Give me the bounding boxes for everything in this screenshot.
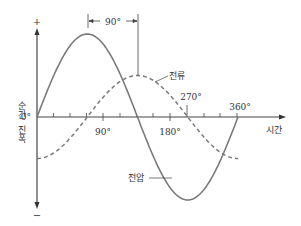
tick-label-180: 180° bbox=[159, 127, 181, 137]
arrow-right-icon bbox=[279, 115, 286, 120]
x-axis-label: 시간 bbox=[266, 125, 282, 135]
tick-label-270: 270° bbox=[180, 92, 202, 102]
plus-label: + bbox=[33, 16, 41, 27]
x-ticks bbox=[54, 105, 238, 121]
tick-label-360: 360° bbox=[229, 102, 251, 112]
current-label: 전류 bbox=[169, 71, 185, 81]
tick-label-90: 90° bbox=[95, 127, 111, 137]
current-leader bbox=[155, 76, 168, 82]
voltage-label: 전압 bbox=[128, 172, 144, 183]
y-axis bbox=[35, 28, 40, 209]
tick-label-0: 0° bbox=[21, 112, 31, 122]
arrow-up-icon bbox=[35, 28, 40, 35]
arrow-left-icon bbox=[89, 20, 93, 23]
minus-label: − bbox=[33, 210, 41, 221]
phase-label: 90° bbox=[105, 17, 121, 27]
phase-diagram: 90° + − 순간 진폭 0° 90° 180° 270° 360° 시간 전… bbox=[0, 0, 301, 226]
arrow-right-icon bbox=[133, 20, 137, 23]
arrow-down-icon bbox=[35, 202, 40, 209]
ylabel-line2: 진폭 bbox=[16, 125, 26, 144]
